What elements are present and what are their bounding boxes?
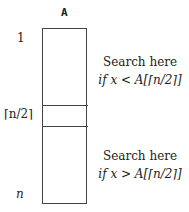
index-middle-text: ⌈n/2⌉ [4, 107, 33, 121]
upper-note-condition: if x < A[⌈n/2⌉] [90, 71, 189, 89]
lower-note-condition: if x > A[⌈n/2⌉] [90, 165, 189, 183]
upper-note-line1: Search here [90, 53, 189, 71]
index-middle: ⌈n/2⌉ [4, 107, 33, 121]
lower-search-note: Search here if x > A[⌈n/2⌉] [90, 147, 189, 183]
index-first: 1 [17, 31, 25, 45]
middle-cell-top-divider [42, 105, 88, 106]
upper-search-note: Search here if x < A[⌈n/2⌉] [90, 53, 189, 89]
middle-cell-bottom-divider [42, 126, 88, 127]
array-label: A [61, 6, 68, 19]
lower-note-line1: Search here [90, 147, 189, 165]
index-last: n [16, 187, 24, 201]
array-rectangle [42, 28, 87, 204]
